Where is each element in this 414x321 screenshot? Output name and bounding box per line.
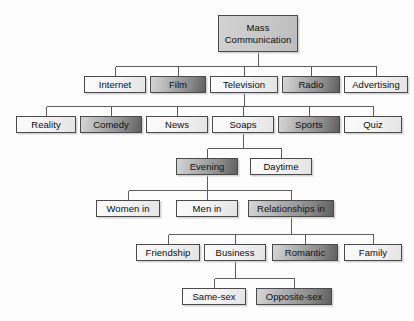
node-label: Daytime <box>263 161 298 172</box>
node-label: News <box>165 119 189 130</box>
node-sports[interactable]: Sports <box>278 116 340 133</box>
node-daytime[interactable]: Daytime <box>250 158 312 175</box>
node-mass-communication[interactable]: MassCommunication <box>218 15 298 52</box>
mass-communication-tree-diagram: MassCommunicationInternetFilmTelevisionR… <box>0 0 414 321</box>
node-label: Family <box>359 247 387 258</box>
node-business[interactable]: Business <box>204 244 266 261</box>
node-label: Quiz <box>363 119 383 130</box>
node-label: Same-sex <box>192 291 235 302</box>
node-friendship[interactable]: Friendship <box>136 244 200 261</box>
node-film[interactable]: Film <box>150 76 206 93</box>
node-relationships-in[interactable]: Relationships in <box>248 200 334 217</box>
node-label: Soaps <box>229 119 256 130</box>
node-women-in[interactable]: Women in <box>96 200 160 217</box>
node-label: Business <box>216 247 255 258</box>
node-label: Mass <box>247 22 270 34</box>
node-label: Television <box>223 79 265 90</box>
node-label: Advertising <box>352 79 400 90</box>
node-same-sex[interactable]: Same-sex <box>182 288 246 305</box>
node-news[interactable]: News <box>146 116 208 133</box>
node-men-in[interactable]: Men in <box>176 200 238 217</box>
node-advertising[interactable]: Advertising <box>344 76 408 93</box>
node-label: Internet <box>99 79 132 90</box>
node-label: Sports <box>295 119 323 130</box>
node-label: Friendship <box>146 247 191 258</box>
node-radio[interactable]: Radio <box>282 76 340 93</box>
node-comedy[interactable]: Comedy <box>80 116 142 133</box>
node-label: Relationships in <box>257 203 325 214</box>
node-reality[interactable]: Reality <box>16 116 76 133</box>
node-label: Film <box>169 79 187 90</box>
node-quiz[interactable]: Quiz <box>344 116 402 133</box>
node-label: Romantic <box>285 247 326 258</box>
node-evening[interactable]: Evening <box>176 158 238 175</box>
node-label: Opposite-sex <box>266 291 323 302</box>
node-label: Radio <box>298 79 323 90</box>
node-opposite-sex[interactable]: Opposite-sex <box>256 288 332 305</box>
node-label: Men in <box>193 203 222 214</box>
node-label: Women in <box>107 203 150 214</box>
node-soaps[interactable]: Soaps <box>212 116 274 133</box>
node-label: Reality <box>31 119 60 130</box>
node-romantic[interactable]: Romantic <box>272 244 338 261</box>
node-label: Comedy <box>93 119 129 130</box>
node-television[interactable]: Television <box>210 76 278 93</box>
node-label: Evening <box>190 161 225 172</box>
node-internet[interactable]: Internet <box>84 76 146 93</box>
node-family[interactable]: Family <box>344 244 402 261</box>
node-label-line2: Communication <box>225 34 292 46</box>
